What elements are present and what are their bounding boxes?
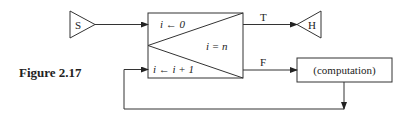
start-node: S [70, 11, 95, 38]
figure-caption: Figure 2.17 [19, 65, 82, 80]
true-label: T [260, 11, 267, 23]
flowchart-diagram: Figure 2.17 S i ← 0 i = n i ← i + 1 T H … [0, 0, 410, 117]
false-label: F [260, 56, 266, 68]
computation-node: (computation) [297, 58, 392, 82]
halt-label: H [308, 19, 316, 31]
computation-label: (computation) [313, 64, 376, 77]
halt-node: H [297, 11, 321, 38]
start-label: S [75, 19, 81, 31]
loop-box: i ← 0 i = n i ← i + 1 [148, 13, 243, 78]
start-triangle-icon [70, 11, 95, 38]
loop-increment-label: i ← i + 1 [153, 63, 194, 75]
loop-init-label: i ← 0 [160, 18, 186, 30]
loop-test-label: i = n [206, 40, 228, 52]
